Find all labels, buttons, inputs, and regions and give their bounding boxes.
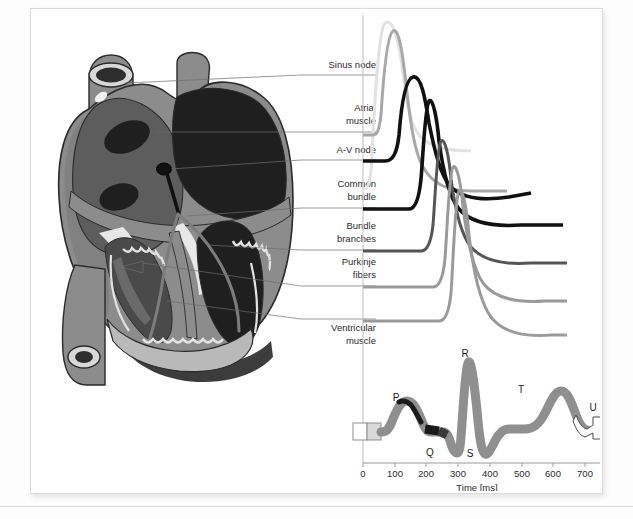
page-bottom-divider: [0, 506, 633, 507]
ecg-xtick-500: 500: [514, 468, 530, 479]
ecg-xtick-300: 300: [450, 468, 466, 479]
ecg-xtick-600: 600: [545, 468, 561, 479]
ecg-calibration-box-1: [353, 423, 367, 440]
label-bundle-branches-line-1: Bundle: [346, 220, 376, 231]
label-bundle-branches-line-2: branches: [337, 233, 376, 244]
label-ventricular-muscle: Ventricular muscle: [301, 319, 376, 346]
label-purkinje-fibers-line-2: fibers: [353, 269, 376, 280]
label-purkinje-fibers: Purkinje fibers: [301, 256, 376, 286]
ecg-x-ticks: [363, 463, 585, 467]
ecg-xtick-200: 200: [418, 468, 434, 479]
label-av-node-line-1: A-V node: [336, 144, 376, 155]
label-sinus-node-line-1: Sinus node: [328, 59, 376, 70]
ap-curve-sinus-node: [363, 22, 471, 189]
ecg-x-axis-title: Time [ms]: [456, 482, 497, 491]
ecg-label-p: P: [393, 392, 400, 403]
ecg-label-u: U: [589, 402, 596, 413]
label-atrial-muscle: Atrial muscle: [301, 102, 376, 132]
label-common-bundle-line-2: bundle: [347, 191, 376, 202]
ecg-pr-segment-dark: [425, 429, 439, 431]
ecg-xtick-700: 700: [577, 468, 593, 479]
label-ventricular-muscle-line-2: muscle: [346, 335, 376, 346]
figure-card: Sinus node Atrial muscle A-V node Common: [30, 8, 603, 494]
ecg-label-s: S: [467, 448, 474, 459]
figure-stage: Sinus node Atrial muscle A-V node Common: [0, 0, 633, 519]
label-purkinje-fibers-line-1: Purkinje: [342, 256, 376, 267]
ecg-panel: P Q R S T U: [353, 348, 600, 491]
ecg-label-r: R: [461, 348, 468, 359]
label-av-node: A-V node: [301, 144, 376, 160]
figure-svg: Sinus node Atrial muscle A-V node Common: [31, 9, 600, 491]
ecg-xtick-400: 400: [482, 468, 498, 479]
label-ventricular-muscle-line-1: Ventricular: [331, 322, 376, 333]
ecg-pr-segment-dark-2: [439, 431, 447, 435]
label-bundle-branches: Bundle branches: [301, 220, 376, 250]
label-common-bundle: Common bundle: [301, 178, 376, 208]
ecg-label-t: T: [518, 384, 524, 395]
ecg-xtick-100: 100: [387, 468, 403, 479]
heart-diagram: [59, 52, 293, 385]
ecg-xtick-0: 0: [360, 468, 365, 479]
label-column: Sinus node Atrial muscle A-V node Common: [301, 59, 376, 346]
label-atrial-muscle-line-1: Atrial: [354, 102, 376, 113]
label-atrial-muscle-line-2: muscle: [346, 115, 376, 126]
ecg-label-q: Q: [426, 447, 434, 458]
label-sinus-node: Sinus node: [301, 59, 376, 75]
av-node-marker: [157, 163, 172, 175]
